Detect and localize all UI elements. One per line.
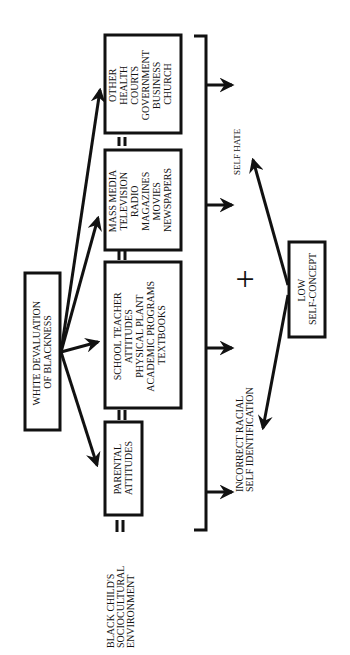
school-line-5: TEXTBOOKS bbox=[156, 305, 167, 364]
parental-line-1: PARENTAL bbox=[112, 444, 123, 494]
equals-sign-media-other bbox=[119, 137, 125, 146]
other-line-5: BUSINESS bbox=[151, 62, 162, 109]
diagram-canvas: BLACK CHILD'S SOCIOCULTURAL ENVIRONMENT … bbox=[0, 0, 350, 655]
svg-text:PARENTAL ATTITUDES: PARENTAL ATTITUDES bbox=[112, 441, 134, 495]
svg-text:INCORRECT RACIAL SELF ID: INCORRECT RACIAL SELF IDENTIFICATION bbox=[234, 387, 255, 492]
arrow-to-other bbox=[61, 90, 100, 352]
media-line-2: TELEVISION bbox=[118, 172, 129, 230]
incorrect-racial-line-2: SELF IDENTIFICATION bbox=[244, 387, 255, 492]
school-line-4: ACADEMIC PROGRAMS bbox=[145, 281, 156, 392]
arrow-to-parental bbox=[61, 352, 97, 465]
environment-label: BLACK CHILD'S SOCIOCULTURAL ENVIRONMENT bbox=[105, 563, 136, 648]
bracket-arrows bbox=[207, 85, 232, 492]
self-hate-label: SELF HATE bbox=[232, 128, 242, 175]
media-line-3: RADIO bbox=[129, 185, 140, 217]
arrow-to-incorrect-racial bbox=[263, 295, 288, 428]
other-line-3: COURTS bbox=[129, 66, 140, 105]
media-line-1: MASS MEDIA bbox=[107, 169, 118, 232]
plus-symbol: + bbox=[235, 260, 254, 297]
other-line-1: OTHER bbox=[107, 68, 118, 102]
mass-media-box: MASS MEDIA TELEVISION RADIO MAGAZINES MO… bbox=[105, 150, 181, 250]
other-line-2: HEALTH bbox=[118, 66, 129, 105]
low-self-concept-box: LOW SELF-CONCEPT bbox=[289, 242, 325, 337]
parental-line-2: ATTITUDES bbox=[123, 441, 134, 495]
arrow-to-school bbox=[61, 342, 98, 352]
school-line-2: ATTITUDES bbox=[123, 309, 134, 363]
school-box: SCHOOL TEACHER ATTITUDES PHYSICAL PLANT … bbox=[105, 262, 181, 408]
svg-text:BLACK CHILD'S SOCIOCULTU: BLACK CHILD'S SOCIOCULTURAL ENVIRONMENT bbox=[105, 563, 136, 648]
svg-text:SELF HATE: SELF HATE bbox=[232, 128, 242, 175]
school-line-1: SCHOOL TEACHER bbox=[112, 292, 123, 380]
other-line-4: GOVERNMENT bbox=[140, 50, 151, 120]
equals-sign-parental-school bbox=[119, 410, 125, 420]
arrow-to-mass-media bbox=[61, 218, 98, 352]
parental-attitudes-box: PARENTAL ATTITUDES bbox=[105, 422, 142, 515]
equals-sign-environment bbox=[117, 520, 123, 532]
outcome-line-1: LOW bbox=[296, 278, 307, 301]
other-line-6: CHURCH bbox=[162, 63, 173, 105]
source-arrows bbox=[61, 90, 100, 465]
other-box: OTHER HEALTH COURTS GOVERNMENT BUSINESS … bbox=[105, 35, 181, 133]
incorrect-racial-label: INCORRECT RACIAL SELF IDENTIFICATION bbox=[234, 387, 255, 492]
svg-text:MASS MEDIA TELEVISION: MASS MEDIA TELEVISION RADIO MAGAZINES MO… bbox=[107, 168, 173, 232]
source-line-2: OF BLACKNESS bbox=[42, 315, 53, 389]
media-line-4: MAGAZINES bbox=[140, 172, 151, 231]
self-hate-text: SELF HATE bbox=[232, 128, 242, 175]
outcome-arrows bbox=[253, 160, 288, 428]
arrow-to-self-hate bbox=[253, 160, 288, 285]
source-line-1: WHITE DEVALUATION bbox=[31, 301, 42, 406]
environment-line-3: ENVIRONMENT bbox=[125, 575, 136, 648]
media-line-6: NEWSPAPERS bbox=[162, 168, 173, 232]
bracket bbox=[194, 36, 206, 530]
equals-sign-school-media bbox=[119, 251, 125, 260]
school-line-3: PHYSICAL PLANT bbox=[134, 295, 145, 378]
plus-sign: + bbox=[235, 260, 254, 297]
media-line-5: MOVIES bbox=[151, 182, 162, 220]
outcome-line-2: SELF-CONCEPT bbox=[307, 253, 318, 325]
white-devaluation-box: WHITE DEVALUATION OF BLACKNESS bbox=[25, 273, 60, 430]
